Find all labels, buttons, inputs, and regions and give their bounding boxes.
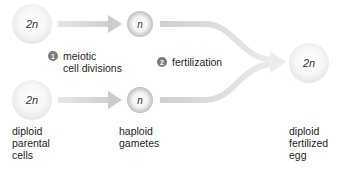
- label-haploid-gametes: haploid gametes: [119, 125, 159, 149]
- label-diploid-parental-cells: diploid parental cells: [12, 125, 50, 161]
- ploidy-label: n: [137, 95, 143, 106]
- diploid-parent-cell-bottom: 2n: [12, 80, 52, 120]
- step-number-badge: 1: [48, 51, 58, 61]
- label-diploid-fertilized-egg: diploid fertilized egg: [289, 125, 328, 161]
- step-label: fertilization: [172, 56, 222, 68]
- diploid-parent-cell-top: 2n: [12, 4, 52, 44]
- diploid-fertilized-egg: 2n: [289, 43, 329, 83]
- ploidy-label: n: [137, 19, 143, 30]
- meiosis-fertilization-diagram: 2n 2n n n 2n 1 meiotic cell divisions 2 …: [0, 0, 340, 170]
- step-fertilization: 2 fertilization: [157, 56, 222, 68]
- step-label: meiotic cell divisions: [63, 50, 122, 74]
- haploid-gamete-bottom: n: [127, 87, 153, 113]
- ploidy-label: 2n: [303, 57, 315, 69]
- ploidy-label: 2n: [26, 18, 38, 30]
- step-meiosis: 1 meiotic cell divisions: [48, 50, 122, 74]
- step-number-badge: 2: [157, 57, 167, 67]
- arrow-meiosis-bottom: [58, 91, 122, 109]
- arrow-meiosis-top: [58, 15, 122, 33]
- ploidy-label: 2n: [26, 94, 38, 106]
- haploid-gamete-top: n: [127, 11, 153, 37]
